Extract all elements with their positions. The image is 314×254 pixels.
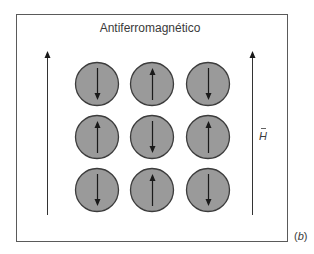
- panel-label: (b): [294, 230, 307, 242]
- field-label-text: H: [259, 130, 267, 142]
- antiferromagnetic-diagram: Antiferromagnético H (b): [0, 0, 314, 254]
- field-arrow-left: [45, 51, 51, 215]
- arrowhead-up-icon: [250, 51, 256, 58]
- field-label: H: [259, 129, 267, 143]
- spin-site: [131, 63, 174, 106]
- spin-site: [76, 63, 119, 106]
- spin-site: [187, 116, 230, 159]
- spin-site: [76, 116, 119, 159]
- field-arrow-right: [250, 51, 256, 215]
- diagram-title: Antiferromagnético: [100, 21, 201, 35]
- spin-site: [187, 169, 230, 212]
- arrowhead-up-icon: [45, 51, 51, 58]
- spin-site: [131, 169, 174, 212]
- spin-site: [76, 169, 119, 212]
- spin-lattice: [76, 63, 230, 212]
- spin-site: [131, 116, 174, 159]
- spin-site: [187, 63, 230, 106]
